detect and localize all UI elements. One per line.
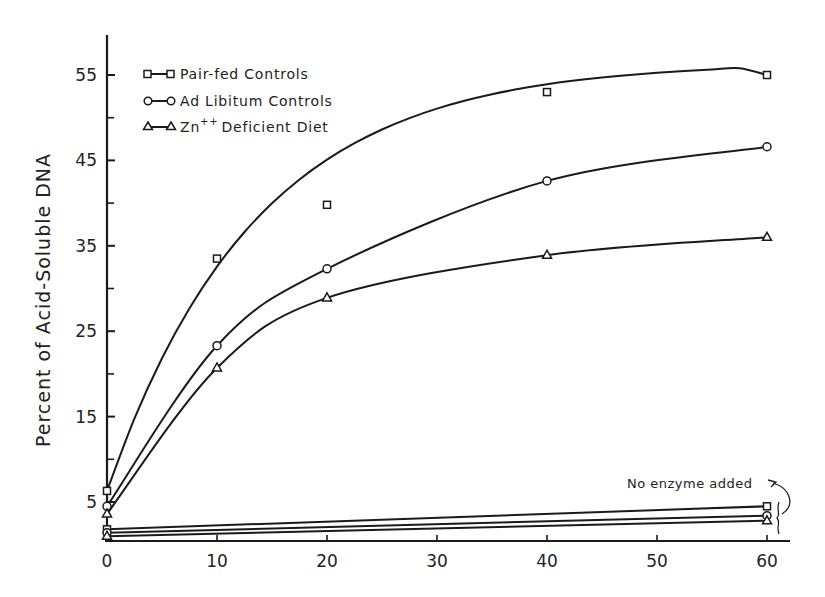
data-series (103, 68, 772, 539)
x-tick-label: 20 (316, 551, 338, 571)
triangle-marker-icon (144, 122, 153, 130)
svg-text:Ad Libitum Controls: Ad Libitum Controls (180, 93, 333, 109)
chart: 51525354555 0102030405060 Percent of Aci… (0, 0, 825, 597)
circle-marker-icon (213, 342, 221, 350)
series-circle (103, 143, 771, 511)
axes (105, 35, 790, 541)
series-square (104, 68, 771, 494)
svg-text:No enzyme added: No enzyme added (627, 476, 753, 491)
x-tick-label: 10 (206, 551, 228, 571)
legend-item-pair-fed: Pair-fed Controls (144, 66, 309, 82)
legend-item-zn-deficient: Zn++Deficient Diet (144, 116, 329, 135)
x-tick-label: 60 (756, 551, 778, 571)
x-tick-label: 0 (102, 551, 113, 571)
square-marker-icon (144, 71, 151, 78)
curved-arrow-icon (773, 483, 790, 514)
triangle-marker-icon (167, 122, 176, 130)
square-marker-icon (544, 89, 551, 96)
y-axis-label: Percent of Acid-Soluble DNA (32, 153, 54, 447)
x-tick-label: 40 (536, 551, 558, 571)
circle-marker-icon (144, 97, 152, 105)
square-marker-icon (104, 487, 111, 494)
y-tick-label: 55 (75, 65, 97, 85)
y-tick-label: 35 (75, 236, 97, 256)
svg-text:Zn++Deficient Diet: Zn++Deficient Diet (180, 116, 329, 135)
y-tick-label: 15 (75, 407, 97, 427)
x-tick-label: 50 (646, 551, 668, 571)
triangle-marker-icon (763, 232, 772, 240)
square-marker-icon (214, 255, 221, 262)
legend-item-ad-libitum: Ad Libitum Controls (144, 93, 332, 109)
square-marker-icon (324, 201, 331, 208)
circle-marker-icon (763, 143, 771, 151)
series-triangle (103, 232, 772, 517)
y-tick-label: 25 (75, 321, 97, 341)
square-marker-icon (764, 503, 771, 510)
svg-text:Pair-fed Controls: Pair-fed Controls (180, 66, 309, 82)
circle-marker-icon (167, 97, 175, 105)
circle-marker-icon (323, 265, 331, 273)
square-marker-icon (167, 71, 174, 78)
bracket-icon (777, 502, 779, 534)
y-tick-label: 45 (75, 150, 97, 170)
square-marker-icon (764, 72, 771, 79)
legend: Pair-fed Controls Ad Libitum Controls Zn… (144, 66, 333, 135)
x-tick-label: 30 (426, 551, 448, 571)
y-tick-label: 5 (86, 492, 97, 512)
circle-marker-icon (543, 177, 551, 185)
y-axis-ticks: 51525354555 (75, 65, 115, 512)
